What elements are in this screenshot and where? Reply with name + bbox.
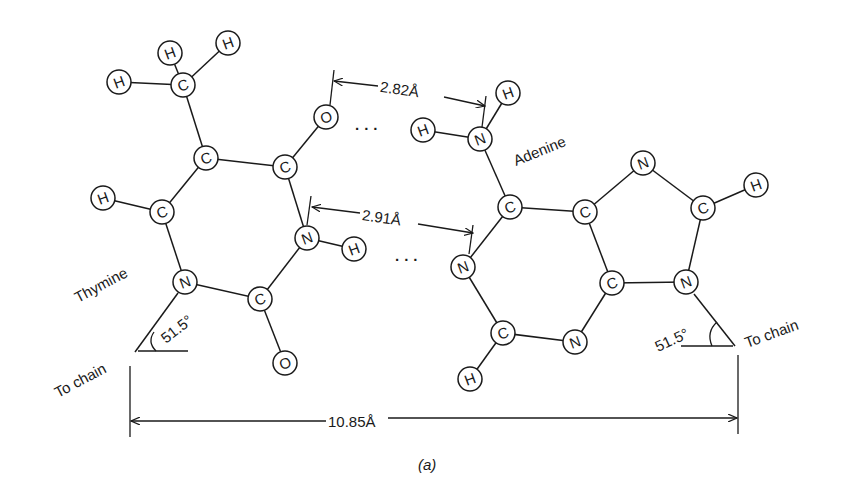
figure-caption: (a)	[418, 456, 436, 473]
atom-c: C	[248, 287, 272, 311]
label-adenine: Adenine	[511, 132, 568, 168]
atom-c: C	[150, 200, 174, 224]
atom-n: N	[468, 127, 492, 151]
atom-o: O	[314, 105, 338, 129]
atom-c: C	[573, 200, 597, 224]
label-angle-left: 51.5°	[157, 311, 195, 346]
label-hbond-middle: 2.91Å	[361, 206, 402, 228]
hbond-top-tick-left	[330, 70, 334, 105]
thymine-angle-arc	[151, 332, 156, 351]
atom-h: H	[158, 41, 182, 65]
atom-n: N	[451, 255, 475, 279]
atom-h: H	[216, 31, 240, 55]
label-to-chain-right: To chain	[742, 316, 800, 351]
base-pair-diagram: HHHCCCOHCNHNCOHHNCNHCCNCNCNH 2.82Å 2.91Å…	[0, 0, 861, 504]
label-c1-distance: 10.85Å	[328, 413, 376, 430]
label-dots-top: · · ·	[355, 120, 378, 137]
atom-h: H	[107, 70, 131, 94]
atom-h: H	[458, 367, 482, 391]
atom-c: C	[273, 155, 297, 179]
adenine-angle-arc	[710, 322, 717, 346]
atom-n: N	[631, 151, 655, 175]
label-angle-right: 51.5°	[652, 324, 691, 354]
atom-c: C	[171, 73, 195, 97]
atom-n: N	[563, 330, 587, 354]
atom-h: H	[496, 81, 520, 105]
atom-h: H	[91, 186, 115, 210]
adenine-chain-bond	[694, 294, 735, 346]
hbond-top-arrow-left	[334, 81, 378, 86]
atom-h: H	[744, 173, 768, 197]
atom-n: N	[674, 270, 698, 294]
bond-lines	[103, 43, 756, 379]
hbond-top-tick-right	[482, 96, 486, 127]
hbond-mid-tick-right	[469, 225, 473, 254]
atom-c: C	[491, 321, 515, 345]
label-dots-middle: · · ·	[395, 251, 418, 268]
hbond-mid-arrow-left	[312, 207, 360, 213]
atom-c: C	[194, 146, 218, 170]
label-thymine: Thymine	[71, 264, 130, 306]
hbond-top-arrow-right	[444, 97, 485, 106]
atom-n: N	[295, 226, 319, 250]
atom-h: H	[342, 237, 366, 261]
label-to-chain-left: To chain	[51, 359, 108, 400]
atom-h: H	[411, 118, 435, 142]
atom-c: C	[691, 196, 715, 220]
label-hbond-top: 2.82Å	[379, 78, 420, 100]
hbond-mid-arrow-right	[418, 224, 473, 233]
atom-c: C	[498, 195, 522, 219]
hbond-mid-tick-left	[307, 196, 311, 225]
atom-n: N	[173, 270, 197, 294]
atom-c: C	[600, 271, 624, 295]
atom-o: O	[273, 351, 297, 375]
